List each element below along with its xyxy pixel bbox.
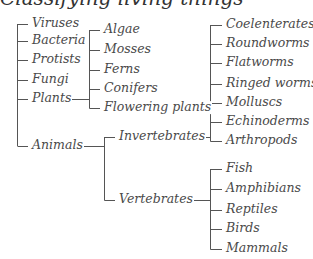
node-reptiles: Reptiles [225,203,279,216]
node-mammals: Mammals [225,242,289,255]
classification-tree-diagram: Classifying living things [0,0,313,259]
node-coelenterates: Coelenterates [225,18,313,31]
node-echinoderms: Echinoderms [225,115,310,128]
node-arthropods: Arthropods [225,134,299,147]
node-fungi: Fungi [31,73,70,86]
node-vertebrates: Vertebrates [118,193,194,206]
node-flowering-plants: Flowering plants [103,101,212,114]
node-amphibians: Amphibians [225,182,302,195]
node-fish: Fish [225,162,254,175]
node-viruses: Viruses [31,17,80,30]
node-bacteria: Bacteria [31,34,87,47]
node-ringed-worms: Ringed worms [225,77,313,90]
node-plants: Plants [31,92,72,105]
node-ferns: Ferns [103,63,141,76]
node-mosses: Mosses [103,43,152,56]
node-birds: Birds [225,222,261,235]
node-conifers: Conifers [103,82,159,95]
node-molluscs: Molluscs [225,96,283,109]
node-algae: Algae [103,23,141,36]
node-invertebrates: Invertebrates [118,130,206,143]
node-roundworms: Roundworms [225,37,311,50]
node-animals: Animals [31,139,84,152]
node-flatworms: Flatworms [225,56,295,69]
node-protists: Protists [31,53,82,66]
